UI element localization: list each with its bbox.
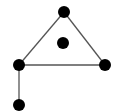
graph-diagram bbox=[0, 0, 121, 112]
edges-group bbox=[19, 12, 105, 105]
nodes-group bbox=[13, 6, 111, 111]
node-right bbox=[99, 59, 111, 71]
node-center bbox=[57, 37, 69, 49]
edge-top-right bbox=[64, 12, 105, 65]
node-bottom bbox=[13, 99, 25, 111]
node-top bbox=[58, 6, 70, 18]
edge-top-left bbox=[19, 12, 64, 65]
node-left bbox=[13, 59, 25, 71]
